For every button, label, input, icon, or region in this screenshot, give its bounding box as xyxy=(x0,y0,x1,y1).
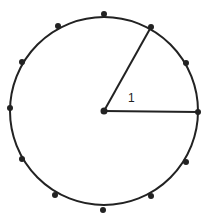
mark-2 xyxy=(183,60,189,66)
mark-6 xyxy=(100,207,106,213)
mark-10 xyxy=(19,59,25,65)
mark-4 xyxy=(183,159,189,165)
mark-11 xyxy=(55,23,61,29)
mark-7 xyxy=(52,192,58,198)
mark-5 xyxy=(148,193,154,199)
radius-to-3 xyxy=(104,111,198,112)
angle-label: 1 xyxy=(128,91,135,105)
clock-diagram: 1 xyxy=(0,0,204,219)
mark-9 xyxy=(7,105,13,111)
center-dot xyxy=(101,108,108,115)
mark-8 xyxy=(19,156,25,162)
mark-12 xyxy=(101,11,107,17)
